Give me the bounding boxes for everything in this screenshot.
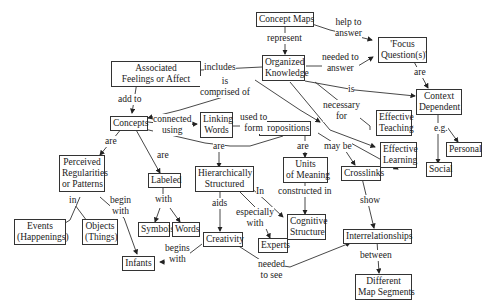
node-personal: Personal: [446, 142, 482, 157]
link-label: answer: [335, 28, 362, 39]
link-label: help to: [335, 17, 362, 28]
link-label: used to: [240, 112, 267, 123]
node-label: (Happenings): [17, 232, 63, 243]
link-with: with: [155, 194, 172, 205]
link-label: to see: [258, 270, 285, 281]
link-begins-with: begins with: [165, 243, 190, 265]
node-label: Map Segments: [358, 287, 409, 298]
link-label: for: [323, 111, 360, 122]
node-perceived-regularities: Perceived Regularities or Patterns: [59, 155, 105, 192]
link-used-to-form: used to form: [240, 112, 267, 134]
node-label: Associated: [114, 63, 198, 74]
link-constructed-in: constructed in: [278, 186, 332, 197]
node-concept-maps: Concept Maps: [256, 12, 314, 27]
node-associated-feelings: Associated Feelings or Affect: [111, 61, 201, 87]
node-symbols: Symbols: [138, 222, 170, 237]
link-is-context: is: [348, 84, 354, 95]
node-context-dependent: Context Dependent: [416, 89, 462, 115]
link-are-hierarchical: are: [213, 141, 225, 152]
node-organized-knowledge: Organized Knowledge: [262, 55, 305, 81]
link-represent: represent: [267, 33, 302, 44]
link-label: with: [236, 218, 274, 229]
link-aids: aids: [212, 198, 227, 209]
node-label: Effective: [383, 144, 414, 155]
node-concepts: Concepts: [110, 116, 148, 131]
node-effective-learning: Effective Learning: [380, 142, 417, 168]
link-needed-to-see: needed to see: [258, 259, 285, 281]
link-label: with: [110, 206, 131, 217]
node-label: of Meaning: [286, 170, 325, 181]
link-includes: includes: [204, 62, 236, 73]
node-label: Hierarchically: [198, 168, 251, 179]
node-label: Structured: [198, 179, 251, 190]
link-are-labeled: are: [157, 150, 169, 161]
node-social: Social: [426, 162, 452, 177]
node-infants: Infants: [122, 256, 155, 271]
node-label: Feelings or Affect: [114, 74, 198, 85]
link-connected-using: connected using: [153, 114, 192, 136]
node-focus-questions: 'Focus Question(s)': [378, 37, 427, 63]
link-add-to: add to: [118, 94, 141, 105]
link-label: connected: [153, 114, 192, 125]
link-necessary-for: necessary for: [323, 100, 360, 122]
link-is-comprised-of: is comprised of: [200, 76, 250, 98]
link-are-units: are: [297, 141, 309, 152]
node-label: Cognitive: [290, 216, 323, 227]
node-label: (Things): [85, 232, 115, 243]
node-label: Knowledge: [265, 68, 302, 79]
node-label: Linking: [203, 114, 230, 125]
link-are-perceived: are: [105, 136, 117, 147]
node-label: Question(s)': [381, 50, 424, 61]
node-label: Different: [358, 276, 409, 287]
link-label: with: [165, 254, 190, 265]
link-label: is: [200, 76, 250, 87]
node-label: Perceived: [62, 157, 102, 168]
node-crosslinks: Crosslinks: [341, 166, 381, 181]
link-show: show: [360, 195, 380, 206]
link-begin-with: begin with: [110, 195, 131, 217]
node-creativity: Creativity: [203, 232, 243, 247]
link-label: necessary: [323, 100, 360, 111]
node-cognitive-structure: Cognitive Structure: [287, 214, 326, 240]
link-especially-with: especially with: [236, 207, 274, 229]
node-experts: Experts: [258, 238, 288, 253]
link-label: begin: [110, 195, 131, 206]
node-effective-teaching: Effective Teaching: [376, 110, 412, 136]
node-label: Events: [17, 221, 63, 232]
link-label: begins: [165, 243, 190, 254]
node-units-of-meaning: Units of Meaning: [283, 157, 328, 183]
link-label: needed: [258, 259, 285, 270]
link-label: using: [153, 125, 192, 136]
node-label: Teaching: [379, 123, 409, 134]
node-label: Words: [203, 125, 230, 136]
link-in: in: [69, 195, 76, 206]
node-label: 'Focus: [381, 39, 424, 50]
link-needed-to-answer: needed to answer: [322, 52, 359, 74]
node-label: Context: [419, 91, 459, 102]
link-may-be: may be: [324, 141, 352, 152]
node-words: Words: [172, 222, 200, 237]
node-label: Dependent: [419, 102, 459, 113]
node-label: Organized: [265, 57, 302, 68]
link-help-to-answer: help to answer: [335, 17, 362, 39]
node-different-map-segments: Different Map Segments: [355, 274, 412, 300]
node-hierarchically-structured: Hierarchically Structured: [195, 166, 254, 192]
node-label: Effective: [379, 112, 409, 123]
node-linking-words: Linking Words: [200, 112, 233, 138]
link-label: especially: [236, 207, 274, 218]
node-interrelationships: Interrelationships: [343, 229, 412, 244]
link-label: answer: [322, 63, 359, 74]
link-label: needed to: [322, 52, 359, 63]
node-labeled: Labeled: [148, 173, 181, 188]
node-label: Regularities: [62, 168, 102, 179]
link-label: comprised of: [200, 87, 250, 98]
node-events: Events (Happenings): [14, 219, 66, 245]
node-label: or Patterns: [62, 179, 102, 190]
node-label: Units: [286, 159, 325, 170]
node-label: Learning: [383, 155, 414, 166]
node-label: Objects: [85, 221, 115, 232]
link-eg: e.g.: [434, 123, 448, 134]
node-objects: Objects (Things): [82, 219, 118, 245]
node-label: Structure: [290, 227, 323, 238]
link-in-cognitive: In: [256, 186, 264, 197]
